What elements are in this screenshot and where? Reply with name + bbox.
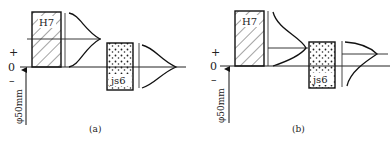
panel-caption: (a)	[89, 124, 101, 134]
hole-distribution-curve	[273, 12, 306, 66]
zero-label: 0	[210, 60, 217, 73]
shaft-distribution-curve	[345, 42, 377, 86]
shaft-label: js6	[110, 75, 126, 86]
minus-sign: –	[9, 74, 15, 87]
hole-label: H7	[39, 17, 54, 28]
panel-b: + 0 – φ50mm H7 js6 (b)	[210, 11, 390, 134]
dimension-label: φ50mm	[14, 89, 24, 124]
panel-a: + 0 – φ50mm H7 js6 (a)	[8, 12, 186, 134]
zero-label: 0	[8, 61, 15, 74]
shaft-label: js6	[312, 74, 328, 85]
hole-distribution-curve	[69, 13, 100, 67]
dimension-label: φ50mm	[216, 88, 226, 123]
tolerance-zone-diagram: + 0 – φ50mm H7 js6 (a) + 0 – φ50mm H7	[0, 0, 390, 147]
panel-caption: (b)	[292, 124, 305, 134]
hole-label: H7	[242, 16, 257, 27]
plus-sign: +	[211, 46, 220, 59]
plus-sign: +	[9, 46, 18, 59]
minus-sign: –	[211, 73, 217, 86]
